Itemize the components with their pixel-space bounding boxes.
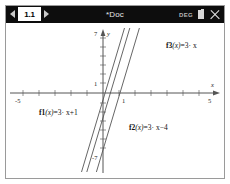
y-axis-arrow-icon — [101, 29, 106, 36]
y-axis-variable-label: y — [106, 30, 110, 37]
function-label-f2[interactable]: f2(x)=3· x−4 — [129, 123, 168, 132]
title-bar: 1.1 *Doc DEG — [6, 6, 224, 23]
function-label-f1-arg: (x) — [45, 108, 53, 117]
x-axis-max-label: 5 — [208, 97, 211, 104]
battery-icon — [198, 10, 204, 19]
x-axis-min-label: -5 — [15, 97, 20, 104]
y-axis-max-label: 7 — [94, 30, 98, 37]
y-axis-unit-label: 1 — [94, 80, 97, 87]
x-axis-variable-label: x — [210, 81, 214, 88]
function-label-f1[interactable]: f1(x)=3· x+1 — [39, 108, 78, 117]
x-axis-arrow-icon — [213, 91, 220, 96]
function-label-f1-eq: =3· x+1 — [54, 108, 78, 117]
function-label-f3-arg: (x) — [172, 41, 180, 50]
function-curves — [82, 28, 140, 172]
function-label-f2-arg: (x) — [135, 123, 143, 132]
close-icon[interactable] — [209, 9, 220, 20]
angle-mode-indicator[interactable]: DEG — [179, 6, 193, 23]
function-label-f3-eq: =3· x — [181, 41, 197, 50]
function-label-f3[interactable]: f3(x)=3· x — [166, 41, 197, 50]
calculator-screen: 1.1 *Doc DEG — [0, 0, 230, 184]
function-label-f2-eq: =3· x−4 — [144, 123, 168, 132]
graph-pane[interactable]: -5 5 1 1 7 -7 x y f3(x)=3· x f1(x)=3· x+… — [6, 23, 224, 178]
x-axis-unit-label: 1 — [122, 97, 125, 104]
y-axis-min-label: -7 — [92, 154, 98, 161]
